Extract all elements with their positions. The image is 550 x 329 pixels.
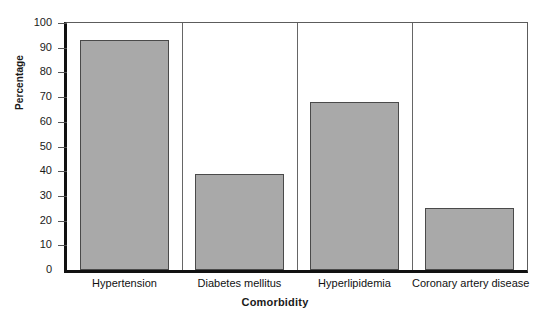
category-divider [412, 23, 413, 270]
bar [195, 174, 285, 270]
y-axis-tick-label: 100 [34, 16, 52, 28]
y-axis-tick-label: 10 [40, 238, 52, 250]
x-axis-category-label: Diabetes mellitus [182, 277, 297, 289]
x-axis-title: Comorbidity [0, 296, 550, 308]
y-axis-tick-mark [58, 221, 67, 222]
bar [80, 40, 170, 270]
x-axis-category-label: Hypertension [67, 277, 182, 289]
x-axis-category-label: Coronary artery disease [412, 277, 527, 289]
y-axis-tick-label: 0 [46, 263, 52, 275]
y-axis-tick-mark [58, 23, 67, 24]
y-axis-tick-label: 50 [40, 140, 52, 152]
y-axis-tick-mark [58, 147, 67, 148]
y-axis-tick-label: 60 [40, 115, 52, 127]
y-axis-tick-label: 80 [40, 65, 52, 77]
bar-chart: Percentage 0102030405060708090100 Comorb… [0, 0, 550, 329]
y-axis-tick-mark [58, 245, 67, 246]
y-axis-tick-mark [58, 72, 67, 73]
y-axis-tick-mark [58, 48, 67, 49]
x-axis-category-label: Hyperlipidemia [297, 277, 412, 289]
y-axis-tick-mark [58, 122, 67, 123]
plot-area: 0102030405060708090100 [67, 23, 527, 270]
plot-frame: 0102030405060708090100 [64, 22, 528, 273]
y-axis-tick-label: 40 [40, 164, 52, 176]
y-axis-tick-label: 70 [40, 90, 52, 102]
category-divider [182, 23, 183, 270]
y-axis-title: Percentage [14, 0, 25, 110]
bar [310, 102, 400, 270]
category-divider [297, 23, 298, 270]
bar [425, 208, 515, 270]
y-axis-tick-mark [58, 97, 67, 98]
y-axis-tick-label: 90 [40, 41, 52, 53]
y-axis-tick-mark [58, 171, 67, 172]
y-axis-tick-label: 30 [40, 189, 52, 201]
y-axis-tick-label: 20 [40, 214, 52, 226]
y-axis-tick-mark [58, 196, 67, 197]
